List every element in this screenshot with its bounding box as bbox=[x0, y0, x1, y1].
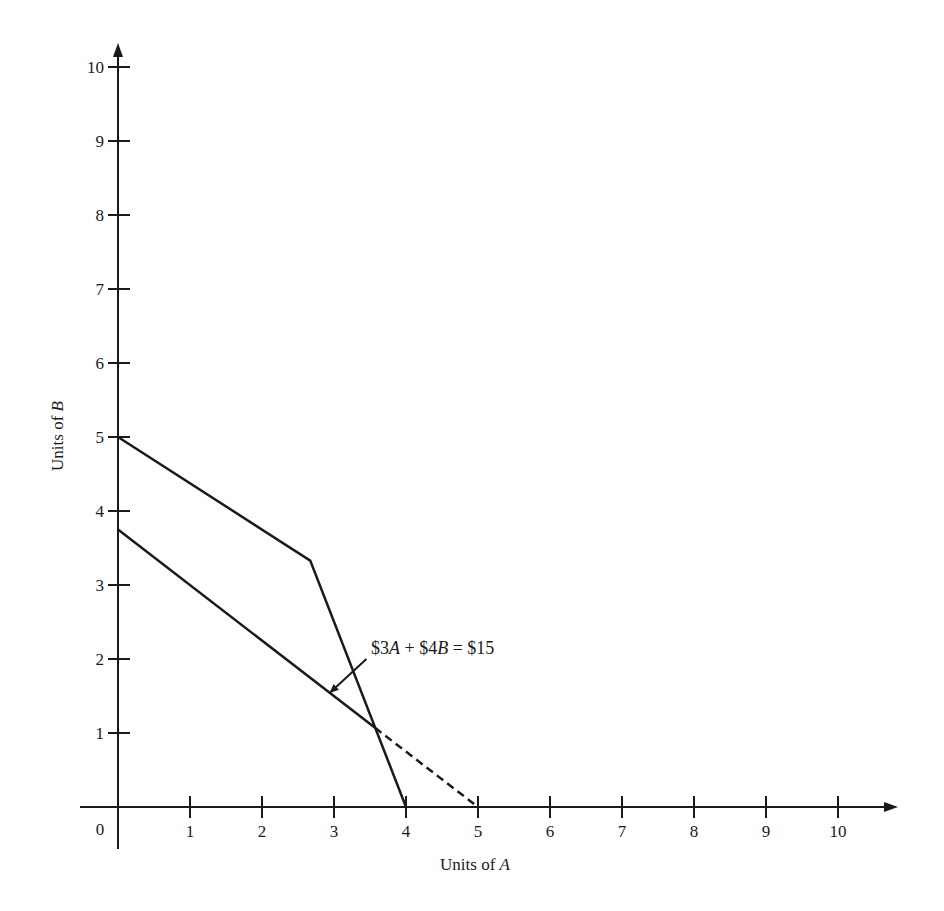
y-tick-label: 8 bbox=[96, 206, 105, 225]
isocost-annotation: $3A + $4B = $15 bbox=[330, 638, 494, 692]
x-axis-title-prefix: Units of bbox=[440, 855, 500, 874]
x-tick-label: 5 bbox=[474, 822, 483, 841]
y-tick-label: 5 bbox=[96, 428, 105, 447]
x-tick-label: 9 bbox=[762, 822, 771, 841]
anno-part: $3 bbox=[371, 638, 389, 658]
y-tick-label: 7 bbox=[96, 280, 105, 299]
chart-series bbox=[118, 437, 478, 807]
y-tick-label: 6 bbox=[96, 354, 105, 373]
x-tick-label: 6 bbox=[546, 822, 555, 841]
y-tick-label: 3 bbox=[96, 576, 105, 595]
y-tick-label: 1 bbox=[96, 724, 105, 743]
y-tick-label: 4 bbox=[96, 502, 105, 521]
x-tick-label: 4 bbox=[402, 822, 411, 841]
x-tick-label: 7 bbox=[618, 822, 627, 841]
x-tick-label: 3 bbox=[330, 822, 339, 841]
x-tick-label: 2 bbox=[258, 822, 267, 841]
y-axis-title: Units of B bbox=[48, 400, 67, 471]
anno-part: = $15 bbox=[448, 638, 494, 658]
x-axis-title: Units of A bbox=[440, 855, 511, 874]
origin-label: 0 bbox=[96, 820, 105, 839]
y-axis-arrow-icon bbox=[113, 43, 123, 57]
y-axis-title-prefix: Units of bbox=[48, 411, 67, 471]
x-tick-label: 8 bbox=[690, 822, 699, 841]
annotation-label: $3A + $4B = $15 bbox=[371, 638, 494, 658]
x-tick-label: 1 bbox=[186, 822, 195, 841]
y-tick-label: 2 bbox=[96, 650, 105, 669]
y-tick-label: 9 bbox=[96, 132, 105, 151]
y-tick-label: 10 bbox=[87, 58, 104, 77]
anno-part: + $4 bbox=[400, 638, 437, 658]
x-tick-label: 10 bbox=[830, 822, 847, 841]
annotation-arrow-icon bbox=[330, 659, 366, 692]
x-axis-arrow-icon bbox=[884, 802, 898, 812]
y-axis-title-var: B bbox=[48, 400, 67, 411]
x-axis-title-var: A bbox=[499, 855, 511, 874]
series-line-0 bbox=[118, 437, 406, 807]
economics-chart: 12345678910 12345678910 0 Units of A Uni… bbox=[0, 0, 944, 911]
x-axis-ticks: 12345678910 bbox=[186, 796, 847, 841]
axes bbox=[80, 43, 898, 849]
anno-var-b: B bbox=[437, 638, 448, 658]
y-axis-ticks: 12345678910 bbox=[87, 58, 130, 743]
